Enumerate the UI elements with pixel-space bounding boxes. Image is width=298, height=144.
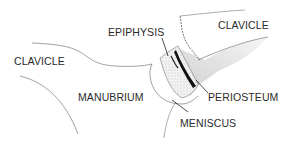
label-epiphysis: EPIPHYSIS [108,27,164,38]
label-clavicle-right: CLAVICLE [218,20,269,31]
clavicle-right-upper-outline [180,10,245,16]
label-manubrium: MANUBRIUM [78,92,144,103]
label-periosteum: PERIOSTEUM [208,92,278,103]
epiphysis-leader [162,38,168,56]
sternoclavicular-joint-diagram: EPIPHYSIS CLAVICLE CLAVICLE MANUBRIUM PE… [0,0,298,144]
label-meniscus: MENISCUS [180,118,236,129]
manubrium-right-outline [164,102,176,138]
manubrium-outline [20,76,78,134]
meniscus-leader [172,100,188,112]
label-clavicle-left: CLAVICLE [14,56,65,67]
